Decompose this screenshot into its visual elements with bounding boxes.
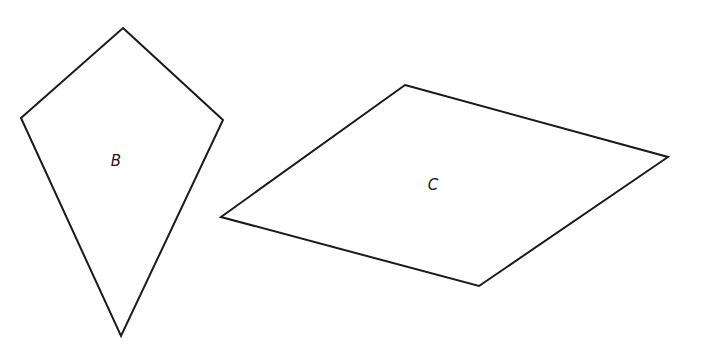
- diagram-canvas: B C: [0, 0, 710, 361]
- rhombus-shape-c: [221, 85, 668, 286]
- shape-label-c: C: [428, 176, 439, 194]
- kite-shape-b: [21, 28, 223, 336]
- shape-label-b: B: [111, 152, 121, 170]
